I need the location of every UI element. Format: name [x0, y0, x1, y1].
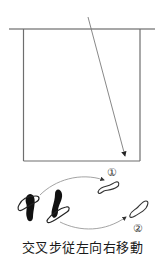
diagram-caption: 交叉步従左向右移動	[0, 239, 165, 257]
crossover-step-diagram: ① ② 交叉步従左向右移動	[0, 0, 165, 267]
diagram-canvas: ① ②	[0, 0, 165, 267]
footprint-icon	[47, 190, 69, 223]
footprint-outline-icon	[130, 201, 148, 217]
marker-2: ②	[133, 222, 143, 235]
marker-1: ①	[107, 166, 117, 179]
footprint-icon	[18, 194, 39, 221]
footprint-outline-icon	[98, 182, 119, 194]
direction-arrow	[88, 17, 125, 156]
path-arrow-1	[40, 177, 104, 195]
path-arrow-2	[60, 217, 126, 229]
